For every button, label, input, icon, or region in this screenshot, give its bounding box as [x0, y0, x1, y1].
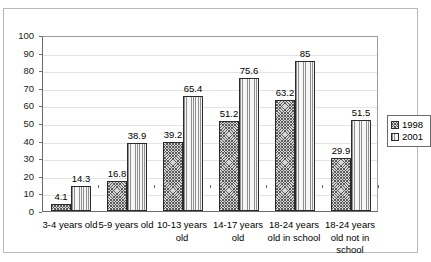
bar-value-label: 85	[290, 49, 320, 59]
gridline	[43, 72, 377, 73]
legend-swatch-1998-icon	[391, 121, 399, 129]
bar-value-label: 65.4	[178, 84, 208, 94]
bar-2001-4[interactable]	[239, 78, 259, 211]
legend-item[interactable]: 2001	[391, 131, 427, 143]
x-axis-tick-mark	[98, 185, 99, 188]
legend-label-2001: 2001	[402, 132, 423, 142]
x-axis-tick-mark	[378, 185, 379, 188]
gridline	[43, 90, 377, 91]
legend-item[interactable]: 1998	[391, 119, 427, 131]
bar-2001-6[interactable]	[351, 120, 371, 211]
bar-value-label: 14.3	[66, 174, 96, 184]
y-axis-tick-label: 80	[4, 66, 34, 76]
y-axis-tick-label: 20	[4, 172, 34, 182]
y-axis-tick-label: 70	[4, 84, 34, 94]
x-axis-category-label: 5-9 years old	[98, 219, 154, 232]
bar-1998-5[interactable]	[275, 100, 295, 211]
x-axis-category-label: 18-24 years old not in school	[322, 219, 378, 257]
legend-label-1998: 1998	[402, 120, 423, 130]
y-axis-tick-label: 10	[4, 189, 34, 199]
gridline	[43, 195, 377, 196]
bar-1998-3[interactable]	[163, 142, 183, 211]
bar-2001-2[interactable]	[127, 143, 147, 211]
x-axis-category-label: 14-17 years old	[210, 219, 266, 244]
bar-2001-1[interactable]	[71, 186, 91, 211]
gridline	[43, 143, 377, 144]
gridline	[43, 125, 377, 126]
y-axis-tick-label: 30	[4, 154, 34, 164]
x-axis-tick-mark	[154, 185, 155, 188]
bar-value-label: 75.6	[234, 66, 264, 76]
x-axis-tick-mark	[210, 185, 211, 188]
bar-1998-2[interactable]	[107, 181, 127, 211]
chart-frame: 1009080706050403020100 4.114.316.838.939…	[3, 8, 418, 253]
y-axis-tick-label: 0	[4, 207, 34, 217]
x-axis-category-label: 18-24 years old in school	[266, 219, 322, 244]
x-axis-tick-mark	[42, 185, 43, 188]
bar-1998-4[interactable]	[219, 121, 239, 211]
x-axis-category-label: 3-4 years old	[42, 219, 98, 232]
y-axis-tick-label: 60	[4, 101, 34, 111]
gridline	[43, 160, 377, 161]
y-axis-tick-label: 100	[4, 31, 34, 41]
bar-2001-5[interactable]	[295, 61, 315, 211]
bar-value-label: 38.9	[122, 131, 152, 141]
y-axis-tick-mark	[39, 212, 42, 213]
y-axis-tick-label: 90	[4, 49, 34, 59]
legend-swatch-2001-icon	[391, 133, 399, 141]
x-axis-tick-mark	[266, 185, 267, 188]
chart-legend: 1998 2001	[387, 115, 431, 147]
bar-value-label: 51.5	[346, 108, 376, 118]
y-axis-tick-label: 40	[4, 137, 34, 147]
y-axis-tick-label: 50	[4, 119, 34, 129]
bar-2001-3[interactable]	[183, 96, 203, 211]
x-axis-category-label: 10-13 years old	[154, 219, 210, 244]
gridline	[43, 107, 377, 108]
bar-1998-6[interactable]	[331, 158, 351, 211]
gridline	[43, 55, 377, 56]
x-axis-tick-mark	[322, 185, 323, 188]
bar-1998-1[interactable]	[51, 204, 71, 211]
